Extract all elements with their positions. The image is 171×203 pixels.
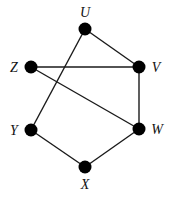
node-u [79, 23, 92, 36]
node-label-u: U [80, 5, 91, 20]
node-z [25, 61, 38, 74]
node-label-y: Y [10, 123, 20, 138]
node-y [25, 124, 38, 137]
node-label-v: V [152, 60, 162, 75]
node-label-z: Z [10, 60, 18, 75]
node-x [79, 161, 92, 174]
node-label-w: W [151, 122, 164, 137]
node-w [133, 123, 146, 136]
node-label-x: X [80, 177, 90, 192]
edges-group [31, 29, 139, 167]
edge-y-x [31, 130, 85, 167]
graph-diagram: UVWXYZ [0, 0, 171, 203]
edge-x-w [85, 129, 139, 167]
edge-z-w [31, 67, 139, 129]
edge-u-y [31, 29, 85, 130]
node-v [133, 61, 146, 74]
edge-u-v [85, 29, 139, 67]
